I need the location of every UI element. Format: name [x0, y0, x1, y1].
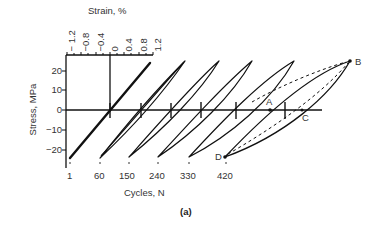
cycle-label: 1	[67, 170, 72, 181]
point-a-marker	[268, 108, 272, 112]
cycle-label: 240	[149, 170, 165, 181]
point-a-label: A	[266, 96, 272, 107]
point-b-label: B	[355, 56, 361, 67]
loop-cycle-330	[189, 61, 294, 157]
strain-tick-label: 1.2	[152, 38, 163, 51]
strain-tick-label: 0.8	[138, 38, 149, 51]
y-tick-label: −20	[46, 144, 62, 155]
strain-tick-label: −0.8	[80, 33, 91, 52]
point-c-label: C	[302, 112, 309, 123]
figure-caption: (a)	[180, 206, 192, 217]
point-d-label: D	[215, 151, 222, 162]
cycle-label: 420	[217, 170, 233, 181]
strain-tick-label: 0	[109, 46, 120, 51]
loop-cycle-420-dashed	[228, 63, 348, 154]
y-tick-label: −10	[46, 124, 62, 135]
y-tick-label: 20	[51, 65, 62, 76]
cycle-label: 150	[119, 170, 135, 181]
cycle-label: 330	[180, 170, 196, 181]
point-b-marker	[348, 59, 352, 63]
strain-axis-title: Strain, %	[88, 5, 127, 16]
y-tick-label: 10	[51, 84, 62, 95]
cycle-label: 60	[94, 170, 105, 181]
y-tick-label: 0	[57, 104, 62, 115]
loop-cycle-420	[225, 61, 350, 157]
stress-axis-title: Stress, MPa	[27, 80, 38, 140]
cycles-axis-title: Cycles, N	[124, 187, 165, 198]
strain-tick-label: −0.4	[95, 33, 106, 52]
key-points	[223, 59, 352, 159]
strain-tick-label: 0.4	[123, 38, 134, 51]
cycle-ticks	[70, 162, 226, 164]
point-d-marker	[223, 155, 227, 159]
strain-tick-label: − 1.2	[66, 30, 77, 51]
hysteresis-chart	[0, 0, 378, 230]
